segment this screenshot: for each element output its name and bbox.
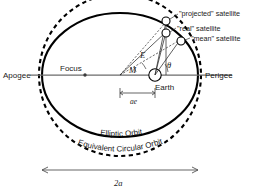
focus-point-marker xyxy=(83,73,86,76)
ae-dimension-label: ae xyxy=(130,97,138,106)
angle-theta-label: θ xyxy=(167,60,171,70)
elliptic-orbit-label: Elliptic Orbit xyxy=(100,127,144,138)
real-satellite-label: "real" satellite xyxy=(177,24,220,33)
perigee-label: Perigee xyxy=(205,71,233,80)
projected-satellite-marker xyxy=(162,17,170,25)
earth-label: Earth xyxy=(155,83,174,92)
apogee-label: Apogee xyxy=(3,71,31,80)
eccentric-anomaly-ray xyxy=(120,22,166,75)
angle-M-label: M xyxy=(128,65,137,75)
orbit-figure: E M θ "projected" satellite "real" satel… xyxy=(0,0,261,193)
projected-satellite-label: "projected" satellite xyxy=(179,9,240,18)
angle-E-label: E xyxy=(139,50,146,60)
real-satellite-marker xyxy=(162,29,170,37)
focus-label: Focus xyxy=(60,64,82,73)
mean-satellite-label: "mean" satellite xyxy=(191,34,240,43)
orbit-diagram-canvas: E M θ "projected" satellite "real" satel… xyxy=(0,0,261,193)
eccentric-anomaly-arc xyxy=(142,63,146,69)
semi-major-dimension-label: 2a xyxy=(114,178,123,188)
mean-satellite-marker xyxy=(177,37,185,45)
equivalent-circular-orbit-label: Equivalent Circular Orbit xyxy=(77,137,164,154)
mean-satellite-leader xyxy=(185,38,190,40)
